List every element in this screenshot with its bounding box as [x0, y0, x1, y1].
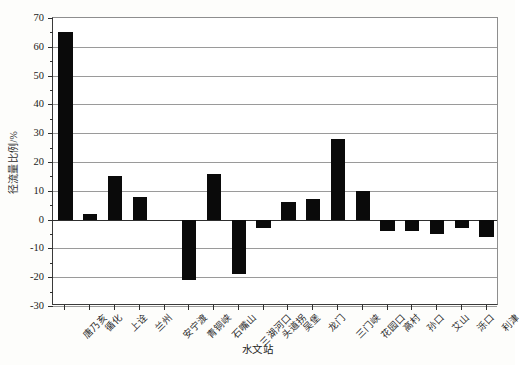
y-tick-label: -10 — [2, 242, 44, 253]
bar — [356, 191, 370, 220]
bar — [455, 220, 469, 229]
bar-series — [53, 18, 497, 304]
bar — [306, 199, 320, 219]
bar — [380, 220, 394, 232]
bar — [133, 197, 147, 220]
y-axis-tick-labels: 706050403020100-10-20-30 — [0, 0, 50, 365]
x-tick-label: 孙口 — [423, 310, 447, 334]
x-tick-label: 安宁渡 — [178, 310, 210, 342]
x-tick-label: 青铜峡 — [203, 310, 235, 342]
y-tick-label: 50 — [2, 69, 44, 80]
x-axis-title: 水文站 — [0, 341, 515, 356]
x-tick-label: 石嘴山 — [228, 310, 260, 342]
x-tick-label: 泺口 — [473, 310, 497, 334]
bar — [207, 174, 221, 220]
x-tick-label: 三门峡 — [352, 310, 384, 342]
plot-area — [52, 17, 498, 305]
bar — [256, 220, 270, 229]
bar — [83, 214, 97, 220]
bar — [430, 220, 444, 234]
y-tick-label: -30 — [2, 300, 44, 311]
y-tick-label: 10 — [2, 184, 44, 195]
bar — [281, 202, 295, 219]
bar — [182, 220, 196, 280]
y-tick-label: 70 — [2, 12, 44, 23]
bar — [479, 220, 493, 237]
y-tick-label: 0 — [2, 213, 44, 224]
y-tick-label: 30 — [2, 127, 44, 138]
x-tick-label: 兰州 — [151, 310, 175, 334]
bar — [58, 32, 72, 219]
bar — [108, 176, 122, 219]
x-tick-label: 利津 — [498, 310, 522, 334]
bar — [331, 139, 345, 220]
x-tick-label: 艾山 — [448, 310, 472, 334]
x-tick-label: 上诠 — [126, 310, 150, 334]
bar — [232, 220, 246, 275]
y-tick-label: 20 — [2, 156, 44, 167]
bar — [405, 220, 419, 232]
y-tick-label: -20 — [2, 271, 44, 282]
x-tick-label: 龙门 — [324, 310, 348, 334]
y-tick-label: 40 — [2, 98, 44, 109]
y-tick-label: 60 — [2, 40, 44, 51]
